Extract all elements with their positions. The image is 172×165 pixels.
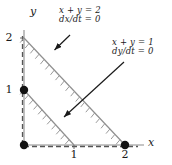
annotation-dy-condition: dy/dt = 0 xyxy=(112,47,154,56)
annotation-dx-nullcline: x + y = 2 dx/dt = 0 xyxy=(59,6,101,24)
nullcline-line-dx xyxy=(20,38,125,145)
annotation-dx-condition: dx/dt = 0 xyxy=(59,15,101,24)
y-tick-label-1: 1 xyxy=(0,83,18,96)
y-tick-label-2: 2 xyxy=(0,31,18,44)
x-axis-label: x xyxy=(148,136,154,149)
annotation-arrow-dx xyxy=(55,35,71,50)
annotation-dy-nullcline: x + y = 1 dy/dt = 0 xyxy=(112,38,154,56)
x-tick-label-1: 1 xyxy=(64,148,84,161)
equilibrium-points xyxy=(20,86,129,149)
x-tick-label-2: 2 xyxy=(115,148,135,161)
nullcline-line-dy xyxy=(20,90,74,145)
y-axis-label: y xyxy=(30,5,36,18)
nullcline-figure: x + y = 2 dx/dt = 0 x + y = 1 dy/dt = 0 … xyxy=(0,0,172,165)
figure-canvas xyxy=(0,0,172,165)
